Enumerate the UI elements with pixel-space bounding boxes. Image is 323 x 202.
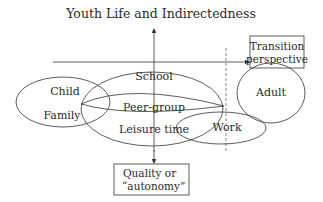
diagram-svg: Youth Life and Indirectedness Transition… <box>0 0 323 202</box>
quality-label-1: Quality or <box>123 167 177 179</box>
child-label: Child <box>50 85 80 98</box>
quality-label-2: “autonomy” <box>122 180 185 192</box>
adult-label: Adult <box>255 86 287 99</box>
diagram-canvas: Youth Life and Indirectedness Transition… <box>0 0 323 202</box>
diagram-title: Youth Life and Indirectedness <box>65 6 256 21</box>
peer-group-label: Peer-group <box>123 101 185 114</box>
work-label: Work <box>212 121 241 134</box>
leisure-time-label: Leisure time <box>119 123 189 136</box>
transition-label-1: Transition <box>250 40 305 52</box>
family-label: Family <box>43 109 81 122</box>
school-label: School <box>135 70 173 83</box>
